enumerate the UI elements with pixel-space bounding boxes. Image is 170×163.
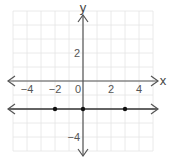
x-tick-label: −4 — [21, 83, 34, 95]
y-tick-label: 2 — [74, 47, 80, 59]
tick-labels: −4−20242−4xy — [21, 0, 167, 143]
data-point — [123, 107, 127, 111]
y-tick-label: −4 — [67, 131, 80, 143]
data-point — [53, 107, 57, 111]
data-point — [81, 107, 85, 111]
y-axis-label: y — [80, 0, 87, 15]
x-axis-label: x — [160, 73, 167, 88]
x-tick-label: 0 — [75, 83, 81, 95]
coordinate-plane: −4−20242−4xy — [0, 0, 170, 163]
x-tick-label: 4 — [136, 83, 142, 95]
x-tick-label: −2 — [49, 83, 62, 95]
x-tick-label: 2 — [108, 83, 114, 95]
